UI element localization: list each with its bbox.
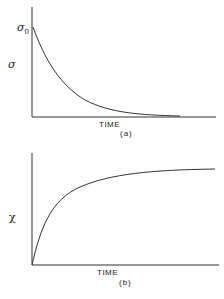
panel-a-caption: (a) (120, 130, 133, 138)
figure-canvas (0, 0, 224, 299)
panel-b-growth-curve (32, 169, 215, 265)
panel-a-x-label: TIME (99, 121, 120, 129)
panel-b-x-label: TIME (97, 269, 118, 277)
panel-a-decay-curve (33, 27, 180, 116)
panel-b-y-label: χ (9, 212, 16, 223)
panel-a-y-label: σ (8, 59, 16, 70)
panel-b-caption: (b) (119, 279, 132, 287)
panel-a-sigma0-label: σ0 (17, 22, 29, 36)
